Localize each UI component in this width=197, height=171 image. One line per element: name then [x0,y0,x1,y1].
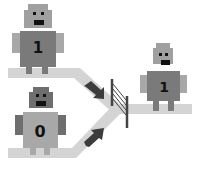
bottom-robot-label: 0 [34,122,45,141]
robot-icon-output: 1 [140,43,187,111]
robot-icon-top: 1 [12,4,64,74]
top-path [8,68,124,114]
output-robot-label: 1 [159,79,169,95]
top-robot-label: 1 [33,39,43,57]
logic-gate-diagram: 1 0 1 [0,0,197,171]
robot-icon-bottom: 0 [15,87,66,155]
